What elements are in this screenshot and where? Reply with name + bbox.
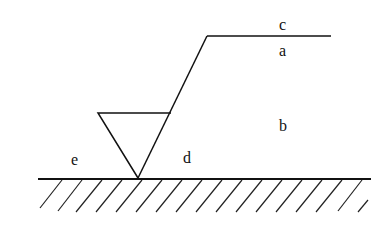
slope-line (138, 36, 207, 178)
slope-diagram: c a b d e (0, 0, 391, 242)
label-c: c (279, 16, 286, 33)
label-e: e (71, 151, 78, 168)
water-level-triangle (98, 113, 171, 178)
ground-hatching (40, 180, 368, 212)
label-b: b (279, 117, 287, 134)
label-d: d (183, 149, 191, 166)
label-a: a (279, 42, 286, 59)
